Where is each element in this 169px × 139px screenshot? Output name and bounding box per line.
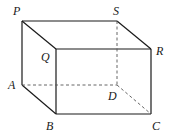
label-D: D	[107, 89, 117, 103]
label-C: C	[152, 119, 161, 133]
edge-AB	[22, 85, 56, 114]
label-P: P	[12, 4, 21, 18]
edge-PQ	[22, 21, 56, 49]
solid-edges	[22, 21, 151, 114]
label-A: A	[7, 78, 16, 92]
label-R: R	[155, 44, 164, 58]
hidden-edges	[22, 21, 151, 114]
cuboid-diagram: P S Q R A D B C	[0, 0, 169, 139]
edge-SR	[117, 21, 151, 49]
edge-DC	[117, 85, 151, 114]
label-B: B	[46, 119, 54, 133]
label-Q: Q	[41, 50, 50, 64]
label-S: S	[113, 4, 119, 18]
